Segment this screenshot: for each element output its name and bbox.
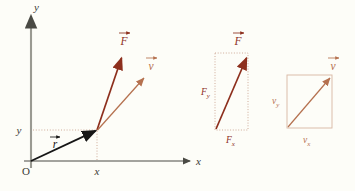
x-tick-label: x	[94, 165, 100, 177]
force-components-panel: F Fy Fx	[200, 33, 248, 148]
force-panel-vector-label-group: F	[233, 33, 244, 47]
velocity-y-component-subscript: y	[275, 101, 280, 109]
velocity-components-panel: v vy vx	[272, 58, 339, 148]
velocity-x-component-label: vx	[303, 135, 311, 148]
force-vector-f	[97, 58, 122, 130]
vector-figure: y x O y x r F v	[0, 0, 355, 191]
force-x-component-label: Fx	[225, 135, 236, 148]
velocity-x-component-subscript: x	[306, 140, 311, 148]
cartesian-axes-panel: y x O y x r F v	[16, 1, 201, 177]
figure-canvas: y x O y x r F v	[0, 0, 355, 191]
force-vector-diagonal	[216, 58, 247, 129]
x-axis-label: x	[195, 155, 201, 167]
position-vector-label: r	[53, 138, 58, 150]
velocity-vector-diagonal	[288, 78, 330, 127]
velocity-panel-vector-label: v	[330, 60, 336, 72]
velocity-vector-label: v	[148, 60, 154, 72]
force-vector-label-group: F	[119, 33, 130, 47]
velocity-panel-vector-label-group: v	[328, 58, 339, 72]
force-panel-vector-label: F	[233, 35, 242, 47]
force-x-component-subscript: x	[231, 140, 236, 148]
force-y-component-subscript: y	[206, 92, 211, 100]
force-vector-label: F	[119, 35, 128, 47]
origin-label: O	[22, 165, 30, 177]
velocity-vector-label-group: v	[146, 58, 157, 72]
position-vector-r	[31, 131, 96, 161]
y-axis-label: y	[33, 1, 39, 13]
y-tick-label: y	[16, 124, 22, 136]
velocity-y-component-label: vy	[272, 96, 280, 109]
force-y-component-label: Fy	[200, 87, 211, 100]
velocity-vector-v	[98, 78, 145, 130]
